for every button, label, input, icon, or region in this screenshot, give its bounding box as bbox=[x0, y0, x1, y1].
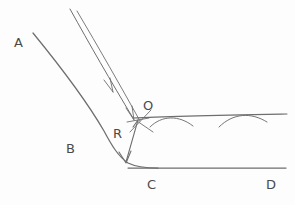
label-D: D bbox=[266, 178, 277, 191]
direction-arrowhead-upper bbox=[104, 78, 113, 92]
reference-arc-two bbox=[219, 115, 267, 127]
label-A: A bbox=[14, 36, 23, 49]
radius-dimension-arrow bbox=[126, 120, 138, 162]
reference-arc-one bbox=[150, 118, 193, 127]
inner-sloping-line bbox=[70, 9, 133, 118]
label-O: O bbox=[143, 99, 154, 112]
label-B: B bbox=[66, 142, 75, 155]
diagram-canvas: A B O R C D bbox=[0, 0, 295, 205]
horizontal-reference-line bbox=[133, 114, 287, 118]
label-R: R bbox=[113, 127, 123, 140]
label-C: C bbox=[147, 178, 157, 191]
